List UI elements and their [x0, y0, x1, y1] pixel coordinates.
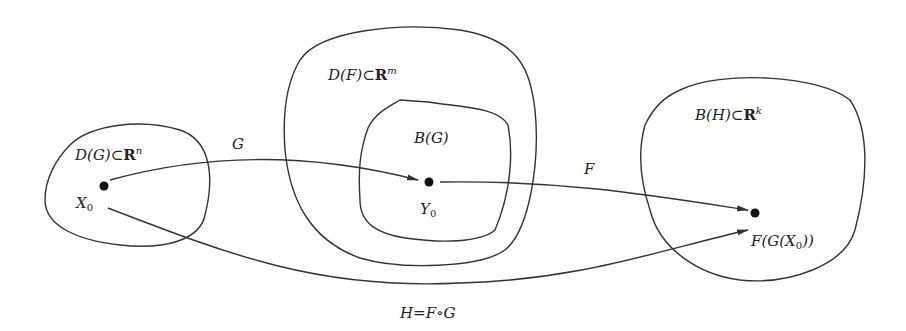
arrow-F-text: F — [584, 160, 594, 178]
dimension-m: m — [387, 65, 396, 76]
dimension-n: n — [136, 145, 142, 156]
arrow-G-text: G — [232, 135, 244, 153]
arrow-G — [110, 159, 418, 180]
point-x0 — [100, 182, 109, 191]
label-DF: D(F)⊂Rm — [328, 66, 397, 83]
label-BH: B(H)⊂Rk — [695, 106, 762, 123]
label-fgx0: F(G(X0)) — [751, 234, 814, 251]
label-arrow-G: G — [232, 137, 244, 152]
fgx0-pre: F(G(X — [751, 232, 796, 250]
label-DG-text: D(G)⊂ — [75, 146, 123, 164]
label-BG-text: B(G) — [414, 129, 449, 147]
reals-symbol: R — [123, 146, 135, 164]
y-symbol: Y — [420, 200, 430, 218]
point-y0 — [425, 178, 434, 187]
label-DG: D(G)⊂Rn — [75, 146, 142, 163]
label-arrow-F: F — [584, 162, 594, 177]
label-DF-text: D(F)⊂ — [328, 66, 375, 84]
dimension-k: k — [756, 105, 762, 116]
fgx0-post: )) — [802, 232, 814, 250]
x-subscript: 0 — [87, 202, 93, 213]
label-BG: B(G) — [414, 131, 449, 146]
set-BG-boundary — [359, 100, 510, 241]
x-symbol: X — [76, 194, 87, 212]
caption: H=F∘G — [400, 306, 455, 321]
composition-diagram — [0, 0, 906, 331]
arrow-F — [440, 182, 748, 210]
label-BH-text: B(H)⊂ — [695, 106, 743, 124]
set-DF-boundary — [284, 27, 536, 265]
reals-symbol: R — [375, 66, 387, 84]
set-DG-boundary — [45, 124, 210, 246]
reals-symbol: R — [743, 106, 755, 124]
label-y0: Y0 — [420, 202, 436, 219]
label-x0: X0 — [76, 196, 93, 213]
point-fgx0 — [751, 209, 760, 218]
y-subscript: 0 — [430, 208, 436, 219]
caption-text: H=F∘G — [400, 304, 455, 322]
